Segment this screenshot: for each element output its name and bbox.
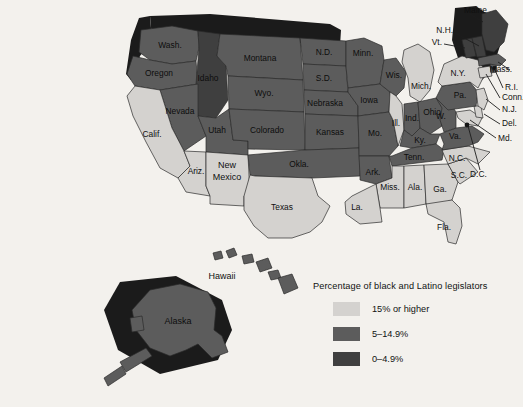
legend-title: Percentage of black and Latino legislato… bbox=[313, 281, 519, 291]
label-louisiana: La. bbox=[351, 202, 363, 212]
label-georgia: Ga. bbox=[433, 184, 447, 194]
map-legend: Percentage of black and Latino legislato… bbox=[313, 281, 519, 385]
legend-label-mid: 5–14.9% bbox=[372, 329, 408, 339]
label-oregon: Oregon bbox=[145, 68, 173, 78]
label-mass: Mass. bbox=[490, 64, 512, 74]
label-vt: Vt. bbox=[432, 37, 442, 47]
label-pennsylvania: Pa. bbox=[454, 90, 467, 100]
label-dc: D.C. bbox=[470, 169, 487, 179]
label-kentucky: Ky. bbox=[414, 135, 425, 145]
label-ri: R.I. bbox=[505, 82, 518, 92]
label-illinois: Ill. bbox=[392, 118, 400, 128]
label-california: Calif. bbox=[142, 129, 161, 139]
dc-dot bbox=[465, 123, 470, 128]
label-wisconsin: Wis. bbox=[386, 70, 402, 80]
state-minnesota[interactable] bbox=[346, 38, 384, 88]
label-michigan: Mich. bbox=[411, 81, 431, 91]
label-kansas: Kansas bbox=[316, 127, 344, 137]
legend-swatch-high bbox=[333, 302, 360, 316]
label-oklahoma: Okla. bbox=[289, 159, 309, 169]
legend-row-high[interactable]: 15% or higher bbox=[313, 300, 519, 317]
leader-del bbox=[484, 114, 500, 124]
label-minnesota: Minn. bbox=[353, 48, 373, 58]
legend-row-mid[interactable]: 5–14.9% bbox=[313, 325, 519, 342]
label-arizona: Ariz. bbox=[188, 166, 205, 176]
label-new-mexico-line2: Mexico bbox=[213, 172, 242, 182]
label-nevada: Nevada bbox=[166, 106, 195, 116]
label-new-york: N.Y. bbox=[450, 68, 465, 78]
label-wyoming: Wyo. bbox=[254, 88, 273, 98]
label-new-mexico-line1: New bbox=[218, 160, 237, 170]
label-north-carolina: N.C. bbox=[449, 153, 466, 163]
label-north-dakota: N.D. bbox=[316, 47, 333, 57]
label-alabama: Ala. bbox=[408, 182, 422, 192]
label-maine: Maine bbox=[464, 5, 487, 15]
label-md: Md. bbox=[498, 133, 512, 143]
legend-row-low[interactable]: 0–4.9% bbox=[313, 350, 519, 367]
label-montana: Montana bbox=[244, 53, 277, 63]
map-figure: Wash. Oregon Idaho Montana Wyo. Nevada U… bbox=[0, 0, 523, 407]
label-idaho: Idaho bbox=[198, 73, 219, 83]
label-del: Del. bbox=[502, 118, 517, 128]
label-south-dakota: S.D. bbox=[316, 73, 332, 83]
label-indiana: Ind. bbox=[405, 113, 419, 123]
label-arkansas: Ark. bbox=[366, 167, 381, 177]
label-colorado: Colorado bbox=[250, 125, 284, 135]
state-maine[interactable] bbox=[482, 10, 508, 52]
label-nebraska: Nebraska bbox=[307, 98, 343, 108]
legend-swatch-low bbox=[333, 352, 360, 366]
label-iowa: Iowa bbox=[360, 95, 378, 105]
legend-label-high: 15% or higher bbox=[372, 304, 429, 314]
label-nj: N.J. bbox=[502, 104, 517, 114]
leader-nj bbox=[486, 99, 500, 110]
label-hawaii: Hawaii bbox=[208, 271, 235, 281]
label-tennessee: Tenn. bbox=[404, 152, 425, 162]
label-alaska: Alaska bbox=[164, 316, 191, 326]
label-virginia: Va. bbox=[449, 131, 461, 141]
label-conn: Conn. bbox=[502, 92, 523, 102]
label-nh: N.H. bbox=[436, 25, 453, 35]
state-michigan[interactable] bbox=[402, 44, 434, 102]
label-missouri: Mo. bbox=[368, 128, 382, 138]
label-florida: Fla. bbox=[437, 222, 451, 232]
label-texas: Texas bbox=[271, 202, 293, 212]
label-utah: Utah bbox=[208, 125, 226, 135]
label-south-carolina: S.C. bbox=[451, 170, 467, 180]
legend-swatch-mid bbox=[333, 327, 360, 341]
label-washington: Wash. bbox=[158, 40, 181, 50]
label-west-virginia: W. bbox=[436, 111, 446, 121]
legend-label-low: 0–4.9% bbox=[372, 354, 403, 364]
label-mississippi: Miss. bbox=[380, 182, 400, 192]
